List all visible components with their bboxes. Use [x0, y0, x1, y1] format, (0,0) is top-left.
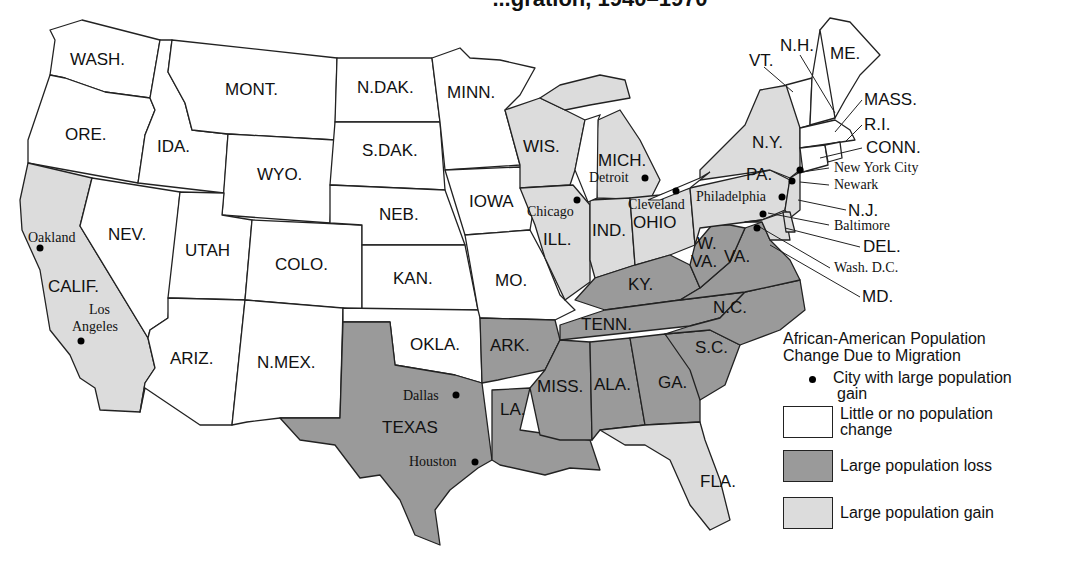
city-label-baltimore: Baltimore: [834, 218, 890, 233]
label-kan: KAN.: [393, 269, 433, 288]
label-colo: COLO.: [275, 255, 328, 274]
city-dot-dallas: [453, 392, 460, 399]
city-label-dallas: Dallas: [403, 388, 439, 403]
city-dot-oakland: [37, 245, 44, 252]
label-del: DEL.: [863, 237, 901, 256]
label-sc: S.C.: [695, 338, 728, 357]
legend-city-label-line2: gain: [833, 386, 1012, 402]
gain-swatch-icon: [783, 497, 833, 529]
label-texas: TEXAS: [382, 418, 438, 437]
label-conn: CONN.: [866, 138, 921, 157]
state-ri: [825, 142, 842, 162]
label-fla: FLA.: [700, 472, 736, 491]
city-label-cleveland: Cleveland: [628, 197, 685, 212]
city-dot-houston: [472, 459, 479, 466]
city-dot-baltimore: [760, 211, 767, 218]
label-ky: KY.: [628, 275, 653, 294]
legend-city-label-line1: City with large population: [833, 370, 1012, 386]
label-wyo: WYO.: [257, 165, 302, 184]
legend-item-no-change: Little or no population change: [783, 406, 1073, 438]
city-label-oakland: Oakland: [28, 230, 75, 245]
legend-item-loss: Large population loss: [783, 450, 1073, 482]
label-iowa: IOWA: [469, 192, 514, 211]
label-neb: NEB.: [379, 205, 419, 224]
no-change-swatch-icon: [783, 406, 833, 438]
label-okla: OKLA.: [410, 335, 460, 354]
city-label-detroit: Detroit: [589, 170, 629, 185]
legend-loss-label: Large population loss: [840, 458, 992, 474]
city-label-los-angeles-line1: Los: [89, 302, 110, 317]
city-label-philadelphia: Philadelphia: [696, 189, 767, 204]
label-nmex: N.MEX.: [257, 353, 316, 372]
label-nc: N.C.: [713, 298, 747, 317]
label-wash: WASH.: [70, 50, 125, 69]
legend-no-change-line2: change: [840, 422, 993, 438]
label-la: LA.: [500, 400, 526, 419]
label-minn: MINN.: [447, 83, 495, 102]
loss-swatch-icon: [783, 450, 833, 482]
city-dot-wash-dc: [754, 225, 761, 232]
label-nev: NEV.: [108, 225, 146, 244]
label-ny: N.Y.: [752, 133, 783, 152]
label-mass: MASS.: [864, 90, 917, 109]
legend-no-change-line1: Little or no population: [840, 406, 993, 422]
legend-item-city: City with large population gain: [783, 370, 1073, 402]
city-dot-chicago: [574, 197, 581, 204]
label-ill: ILL.: [543, 230, 571, 249]
label-miss: MISS.: [537, 377, 583, 396]
label-nh: N.H.: [780, 36, 814, 55]
city-label-wash-dc: Wash. D.C.: [834, 260, 898, 275]
city-label-chicago: Chicago: [527, 204, 574, 219]
label-mont: MONT.: [225, 80, 278, 99]
label-ala: ALA.: [594, 375, 631, 394]
label-ri: R.I.: [864, 115, 890, 134]
label-ore: ORE.: [65, 125, 107, 144]
city-dot-philadelphia: [779, 194, 786, 201]
label-ariz: ARIZ.: [170, 349, 213, 368]
label-wva-line1: W.: [697, 234, 717, 253]
label-tenn: TENN.: [581, 315, 632, 334]
city-label-los-angeles-line2: Angeles: [72, 319, 118, 334]
legend-gain-label: Large population gain: [840, 505, 994, 521]
label-ndak: N.DAK.: [357, 78, 414, 97]
state-conn: [800, 145, 828, 172]
label-ga: GA.: [658, 373, 687, 392]
legend-title-line1: African-American Population: [783, 330, 1073, 347]
state-mich-upper: [540, 75, 630, 110]
label-ark: ARK.: [490, 336, 530, 355]
label-mo: MO.: [495, 271, 527, 290]
leader-newark: [800, 182, 829, 185]
leader-nj: [798, 200, 846, 210]
label-va: VA.: [724, 247, 750, 266]
label-ohio: OHIO: [633, 213, 676, 232]
city-label-new-york-city: New York City: [834, 160, 918, 175]
label-vt: VT.: [749, 51, 774, 70]
city-label-houston: Houston: [409, 454, 456, 469]
label-ind: IND.: [592, 221, 626, 240]
label-sdak: S.DAK.: [362, 141, 418, 160]
city-dot-detroit: [642, 175, 649, 182]
city-dot-icon: [809, 376, 816, 383]
label-wva-line2: VA.: [691, 252, 717, 271]
map-legend: African-American Population Change Due t…: [783, 330, 1073, 529]
label-ida: IDA.: [157, 137, 190, 156]
legend-title-line2: Change Due to Migration: [783, 347, 1073, 364]
label-calif: CALIF.: [48, 277, 99, 296]
label-mich: MICH.: [598, 151, 646, 170]
legend-item-gain: Large population gain: [783, 497, 1073, 529]
label-utah: UTAH: [185, 241, 230, 260]
city-dot-new-york-city: [797, 167, 804, 174]
city-label-newark: Newark: [834, 177, 878, 192]
label-wis: WIS.: [523, 137, 560, 156]
city-dot-cleveland: [673, 188, 680, 195]
label-me: ME.: [830, 44, 860, 63]
label-pa: PA.: [746, 165, 772, 184]
label-md: MD.: [862, 287, 893, 306]
city-dot-newark: [789, 178, 796, 185]
city-dot-los-angeles: [78, 338, 85, 345]
